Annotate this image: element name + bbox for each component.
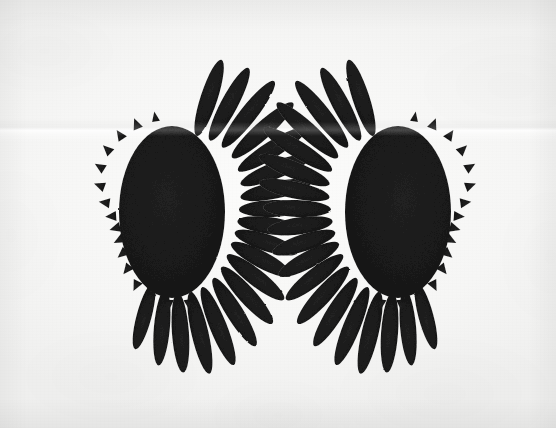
ink-forms-layer (0, 0, 556, 428)
left-form-body (119, 126, 225, 298)
spiked-forms-svg (0, 0, 556, 428)
artwork-canvas (0, 0, 556, 428)
right-form-body (345, 126, 451, 298)
